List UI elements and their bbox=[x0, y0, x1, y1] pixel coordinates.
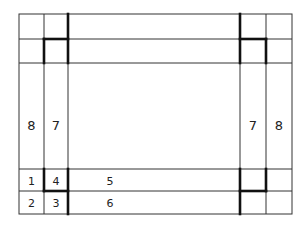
label-cell-1: 1 bbox=[28, 175, 35, 188]
label-band-6: 6 bbox=[107, 197, 114, 210]
thin-grid-lines bbox=[19, 14, 292, 214]
labels: 8 7 7 8 1 4 2 3 5 6 bbox=[27, 118, 283, 210]
label-right-outer: 8 bbox=[275, 118, 283, 133]
label-cell-4: 4 bbox=[53, 175, 60, 188]
label-cell-2: 2 bbox=[28, 197, 35, 210]
label-cell-3: 3 bbox=[53, 197, 60, 210]
label-left-outer: 8 bbox=[27, 118, 35, 133]
thick-lines bbox=[44, 14, 266, 214]
grid-diagram: 8 7 7 8 1 4 2 3 5 6 bbox=[0, 0, 305, 225]
label-left-inner: 7 bbox=[52, 118, 60, 133]
label-band-5: 5 bbox=[107, 175, 114, 188]
outer-frame bbox=[19, 14, 292, 214]
label-right-inner: 7 bbox=[249, 118, 257, 133]
